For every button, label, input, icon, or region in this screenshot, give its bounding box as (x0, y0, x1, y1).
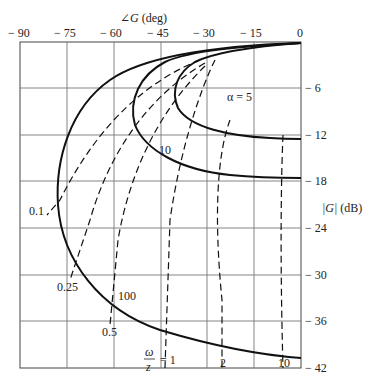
wz-10-label: 10 (278, 356, 290, 370)
svg-text:− 30: − 30 (305, 268, 327, 282)
alpha-10-label: 10 (159, 143, 171, 157)
nichols-chart: ∠G (deg) − 90 − 75 − 60 − 45 − 30 − 15 0… (0, 0, 375, 385)
wz-1-label-val: = 1 (160, 353, 176, 367)
alpha-5-label: α = 5 (227, 90, 252, 104)
svg-text:− 42: − 42 (305, 361, 327, 375)
wz-10-curve (281, 135, 283, 368)
x-axis-title: ∠G (deg) (120, 11, 167, 25)
alpha-100-label: 100 (118, 289, 136, 303)
svg-text:− 15: − 15 (240, 26, 262, 40)
alpha-100-curve (58, 43, 301, 358)
wz-1-label-den: z (145, 360, 151, 374)
wz-1-label-num: ω (145, 345, 153, 359)
wz-0.5-label: 0.5 (102, 325, 117, 339)
svg-text:− 18: − 18 (305, 174, 327, 188)
y-axis-title: |G| (dB) (322, 201, 362, 215)
grid (20, 42, 301, 368)
alpha-10-curve (133, 43, 301, 178)
x-tick-labels: − 90 − 75 − 60 − 45 − 30 − 15 0 (8, 26, 303, 40)
svg-text:− 6: − 6 (305, 81, 321, 95)
alpha-curves (58, 43, 301, 358)
wz-0.5-curve (110, 66, 205, 325)
svg-text:− 75: − 75 (54, 26, 76, 40)
svg-text:− 60: − 60 (100, 26, 122, 40)
y-tick-labels: − 6 − 12 − 18 − 24 − 30 − 36 − 42 (305, 81, 327, 375)
svg-text:− 24: − 24 (305, 221, 327, 235)
svg-text:− 45: − 45 (147, 26, 169, 40)
wz-2-label: 2 (220, 356, 226, 370)
svg-text:− 36: − 36 (305, 314, 327, 328)
omega-z-curves (47, 60, 283, 368)
svg-text:0: 0 (297, 26, 303, 40)
wz-1-curve (165, 60, 215, 368)
wz-0.25-curve (70, 63, 205, 280)
curve-annotations: α = 5 10 100 0.1 0.25 0.5 ω z = 1 2 10 (29, 90, 290, 374)
svg-text:− 90: − 90 (8, 26, 30, 40)
wz-2-curve (217, 120, 230, 368)
svg-text:− 30: − 30 (193, 26, 215, 40)
wz-0.1-label: 0.1 (29, 204, 44, 218)
svg-text:− 12: − 12 (305, 128, 327, 142)
wz-0.25-label: 0.25 (57, 280, 78, 294)
